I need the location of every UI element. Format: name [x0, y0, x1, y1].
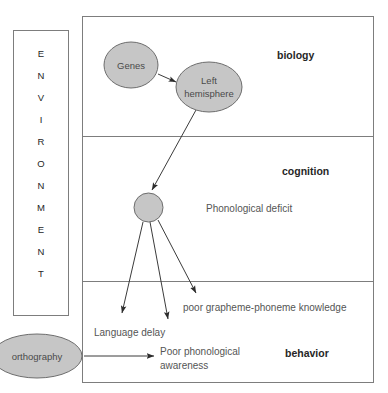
env-letter-9: N: [38, 246, 45, 257]
arrow-deficit-to-grapheme-phoneme: [158, 220, 196, 293]
env-letter-8: E: [38, 224, 44, 235]
phonological-deficit-circle[interactable]: [134, 193, 163, 222]
env-letter-7: M: [37, 202, 45, 213]
left-hemisphere-label-line1: Left: [201, 75, 217, 86]
language-delay-text: Language delay: [94, 327, 165, 338]
node-genes[interactable]: Genes: [104, 42, 158, 88]
environment-label: E N V I R O N M E N T: [37, 48, 45, 279]
phonological-deficit-text: Phonological deficit: [206, 203, 292, 214]
poor-phonological-awareness-line2: awareness: [160, 360, 208, 371]
node-left-hemisphere[interactable]: Left hemisphere: [176, 62, 242, 112]
env-letter-0: E: [38, 48, 44, 59]
left-hemisphere-label-line2: hemisphere: [184, 88, 234, 99]
env-letter-10: T: [38, 268, 44, 279]
genes-label: Genes: [117, 60, 145, 71]
arrow-deficit-to-language-delay: [122, 222, 143, 313]
node-phonological-deficit[interactable]: [134, 193, 163, 222]
env-letter-6: N: [38, 180, 45, 191]
orthography-label: orthography: [12, 351, 63, 362]
arrow-deficit-to-poor-phonological-awareness: [150, 222, 168, 319]
level-label-cognition: cognition: [282, 165, 329, 177]
env-letter-2: V: [38, 92, 45, 103]
grapheme-phoneme-text: poor grapheme-phoneme knowledge: [183, 302, 347, 313]
node-orthography[interactable]: orthography: [0, 334, 82, 378]
env-letter-4: R: [38, 136, 45, 147]
arrow-left-hemisphere-to-phonological-deficit: [152, 110, 196, 190]
arrow-genes-to-left-hemisphere: [158, 74, 176, 82]
level-label-biology: biology: [277, 49, 314, 61]
poor-phonological-awareness-line1: Poor phonological: [160, 346, 240, 357]
env-letter-3: I: [40, 114, 43, 125]
env-letter-1: N: [38, 70, 45, 81]
diagram-canvas: E N V I R O N M E N T biology cognition …: [0, 0, 388, 393]
causal-model-diagram: E N V I R O N M E N T biology cognition …: [0, 0, 388, 393]
env-letter-5: O: [37, 158, 44, 169]
level-label-behavior: behavior: [285, 347, 329, 359]
